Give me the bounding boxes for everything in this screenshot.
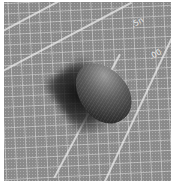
photo: .5n .00 [4,2,171,181]
